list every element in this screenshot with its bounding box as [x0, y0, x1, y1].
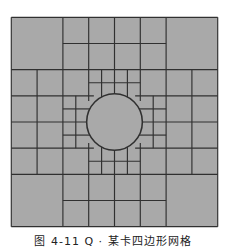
- circular-hole: [87, 94, 143, 151]
- figure-caption: 图 4-11 Q · 某卡四边形网格: [0, 235, 226, 249]
- quad-mesh-diagram: [10, 16, 219, 228]
